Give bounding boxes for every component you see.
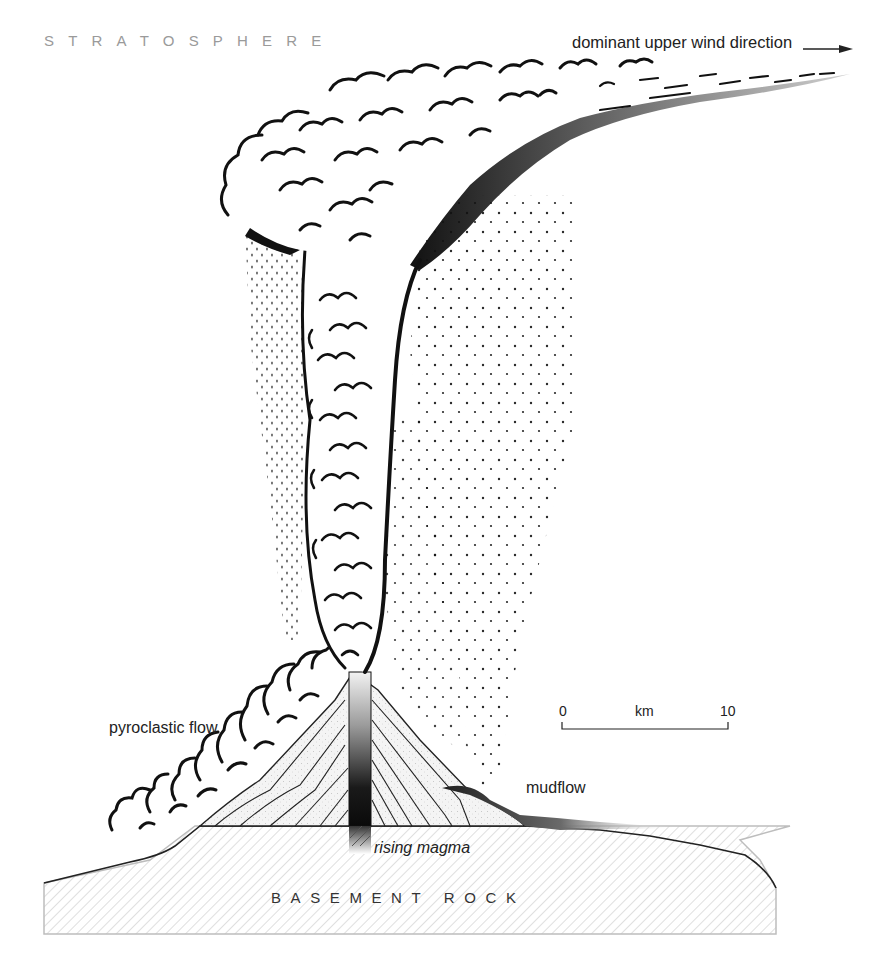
scale-unit-label: km xyxy=(635,703,654,719)
eruption-diagram xyxy=(0,0,890,968)
scale-end-label: 10 xyxy=(720,703,736,719)
mudflow-label: mudflow xyxy=(526,779,586,797)
pyroclastic-flow-label: pyroclastic flow xyxy=(109,719,217,737)
arrow-right-icon xyxy=(803,44,853,54)
wind-direction-label: dominant upper wind direction xyxy=(572,33,792,52)
basement-rock-label: BASEMENT ROCK xyxy=(271,889,526,906)
rising-magma-label: rising magma xyxy=(374,839,470,857)
magma-conduit xyxy=(349,672,371,826)
stratosphere-label: STRATOSPHERE xyxy=(44,32,336,49)
scale-start-label: 0 xyxy=(559,703,567,719)
scale-bar xyxy=(562,722,728,729)
